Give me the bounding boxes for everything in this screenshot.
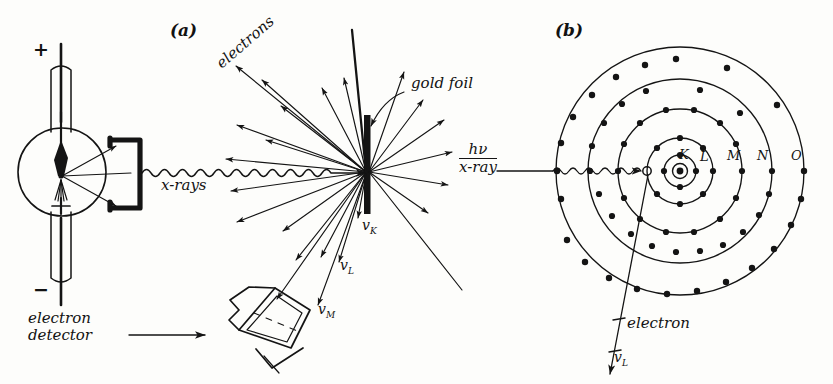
panel-a-tag: (a): [170, 22, 197, 40]
velocity-label-l: vL: [340, 258, 354, 276]
shell-label-O: O: [791, 149, 802, 163]
shell-label-N: N: [757, 149, 768, 163]
shell-label-M: M: [727, 149, 740, 163]
cathode-minus-sign: −: [33, 280, 49, 300]
electron-detector-label: electron detector: [28, 310, 92, 345]
panel-b-tag: (b): [555, 22, 583, 40]
velocity-label-m: vM: [318, 302, 335, 320]
electron-detector-label-line1: electron: [28, 310, 92, 327]
ejected-velocity-label: vL: [614, 350, 628, 368]
velocity-subscript-m: M: [326, 310, 335, 320]
gold-foil-label: gold foil: [411, 76, 473, 92]
xrays-label: x-rays: [161, 178, 207, 194]
shell-label-L: L: [700, 150, 709, 164]
incident-photon-label: hν x-ray: [459, 142, 497, 175]
velocity-symbol-m: v: [318, 301, 326, 317]
velocity-subscript-k: K: [370, 226, 377, 236]
ejected-electron-track: [610, 175, 648, 374]
velocity-symbol-k: v: [362, 217, 370, 233]
ejected-electron-label: electron: [627, 316, 690, 332]
shell-label-K: K: [679, 148, 689, 162]
xray-photoemission-figure: (a) (b) + − x-rays electrons gold foil e…: [0, 0, 833, 384]
ejected-velocity-subscript: L: [622, 358, 628, 368]
figure-canvas: [0, 0, 833, 384]
ejected-velocity-symbol: v: [614, 349, 622, 365]
electron-detector-label-line2: detector: [28, 327, 92, 344]
xray-label-b: x-ray: [459, 160, 497, 175]
photon-energy-label: hν: [459, 142, 497, 157]
velocity-symbol-l: v: [340, 257, 348, 273]
nucleus-core: [677, 168, 684, 175]
electron-detector: [229, 287, 310, 373]
anode-plus-sign: +: [33, 40, 49, 60]
velocity-label-k: vK: [362, 218, 377, 236]
gold-foil-pointer: [371, 92, 404, 126]
shell-O-electrons: [554, 56, 807, 297]
incident-photon-wave: [553, 168, 641, 174]
velocity-subscript-l: L: [348, 266, 354, 276]
xray-tube: [18, 44, 140, 305]
